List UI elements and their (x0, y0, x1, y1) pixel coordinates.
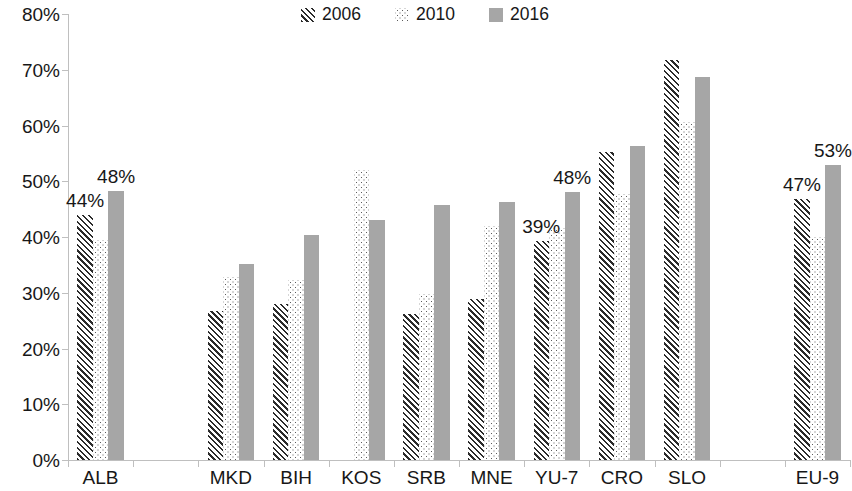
x-axis-tick-label: ALB (83, 468, 119, 487)
y-axis-tick-label: 10% (0, 395, 60, 414)
x-axis-tick-label: MKD (210, 468, 252, 487)
x-axis-tick-label: EU-9 (796, 468, 839, 487)
bar-data-label: 48% (553, 168, 591, 187)
x-axis-tick (394, 460, 395, 467)
y-axis-tick (62, 181, 68, 182)
bar-KOS-2016 (369, 220, 385, 460)
bar-YU-7-2016 (565, 192, 581, 460)
bar-SRB-2006 (403, 314, 419, 460)
x-axis-tick (329, 460, 330, 467)
x-axis-tick (655, 460, 656, 467)
bar-MKD-2016 (239, 264, 255, 460)
bar-data-label: 48% (97, 167, 135, 186)
y-axis-tick-label: 70% (0, 60, 60, 79)
bar-MNE-2016 (499, 202, 515, 460)
bar-BIH-2010 (288, 280, 304, 460)
bar-ALB-2016 (108, 191, 124, 460)
x-axis-tick (264, 460, 265, 467)
bar-CRO-2010 (614, 194, 630, 460)
bar-data-label: 53% (814, 141, 852, 160)
y-axis-tick (62, 237, 68, 238)
bar-BIH-2006 (273, 304, 289, 460)
bar-ALB-2010 (93, 240, 109, 460)
y-axis-tick (62, 126, 68, 127)
y-axis-tick (62, 404, 68, 405)
x-axis-tick-label: BIH (280, 468, 312, 487)
bar-MKD-2010 (223, 277, 239, 460)
bar-YU-7-2010 (549, 228, 565, 460)
bar-SRB-2016 (434, 205, 450, 460)
bar-data-label: 44% (66, 191, 104, 210)
x-axis-tick-label: KOS (341, 468, 381, 487)
x-axis-tick (133, 460, 134, 467)
bar-MKD-2006 (208, 311, 224, 460)
x-axis-tick (589, 460, 590, 467)
x-axis-tick (459, 460, 460, 467)
y-axis-tick-label: 60% (0, 116, 60, 135)
y-axis-tick (62, 70, 68, 71)
bar-ALB-2006 (77, 215, 93, 460)
bar-EU-9-2006 (794, 199, 810, 460)
x-axis-tick (720, 460, 721, 467)
y-axis-tick-label: 0% (0, 451, 60, 470)
x-axis-tick (198, 460, 199, 467)
y-axis-tick-label: 50% (0, 172, 60, 191)
y-axis-labels: 0%10%20%30%40%50%60%70%80% (0, 14, 60, 460)
y-axis-tick (62, 293, 68, 294)
bar-MNE-2010 (484, 226, 500, 460)
y-axis-tick (62, 349, 68, 350)
bar-CRO-2016 (630, 146, 646, 460)
x-axis-tick (68, 460, 69, 467)
x-axis-tick-label: CRO (601, 468, 643, 487)
x-axis-tick-label: MNE (470, 468, 512, 487)
plot-area: 44%48%39%48%47%53% (68, 14, 850, 460)
y-axis-tick (62, 14, 68, 15)
x-axis-tick-label: YU-7 (535, 468, 578, 487)
y-axis-tick-label: 30% (0, 283, 60, 302)
bar-YU-7-2006 (534, 241, 550, 460)
x-axis-tick-label: SLO (668, 468, 706, 487)
x-axis-tick (850, 460, 851, 467)
bar-data-label: 39% (522, 217, 560, 236)
x-axis-tick-label: SRB (407, 468, 446, 487)
bar-CRO-2006 (599, 152, 615, 460)
x-axis-tick (524, 460, 525, 467)
x-axis-tick (785, 460, 786, 467)
bar-EU-9-2010 (810, 237, 826, 460)
bar-BIH-2016 (304, 235, 320, 460)
bar-MNE-2006 (468, 299, 484, 460)
y-axis-tick-label: 40% (0, 228, 60, 247)
y-axis-tick-label: 20% (0, 339, 60, 358)
bar-data-label: 47% (783, 175, 821, 194)
y-axis-tick-label: 80% (0, 5, 60, 24)
bar-KOS-2010 (354, 170, 370, 460)
bar-SLO-2010 (679, 122, 695, 460)
bar-SRB-2010 (419, 294, 435, 460)
bar-SLO-2006 (664, 60, 680, 460)
x-axis-labels: ALBMKDBIHKOSSRBMNEYU-7CROSLOEU-9 (68, 468, 850, 491)
bar-EU-9-2016 (825, 165, 841, 460)
bar-SLO-2016 (695, 77, 711, 460)
